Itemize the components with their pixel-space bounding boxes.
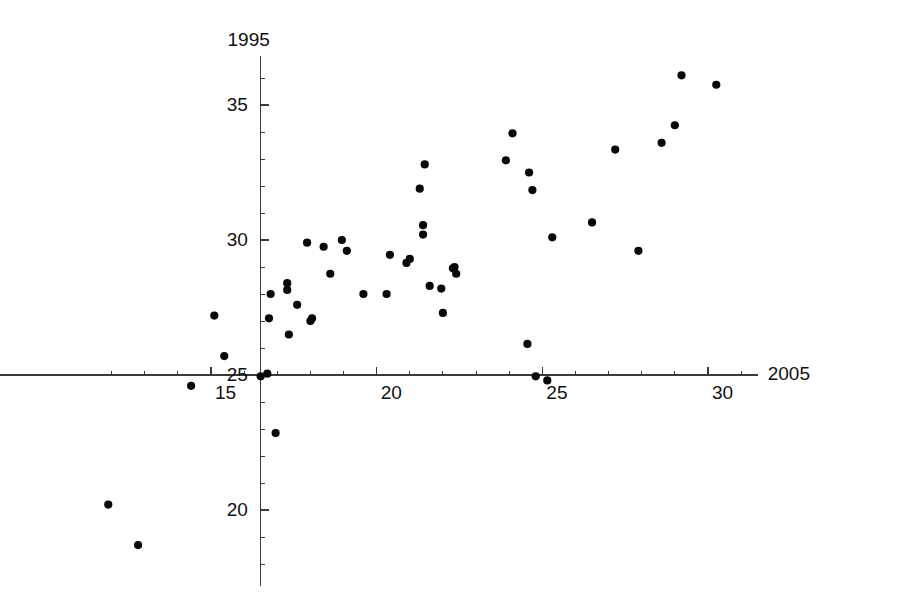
data-point xyxy=(528,186,536,194)
y-tick-label: 25 xyxy=(227,365,248,384)
data-point xyxy=(658,139,666,147)
x-tick-label: 30 xyxy=(712,383,733,402)
data-point xyxy=(421,160,429,168)
data-point xyxy=(303,239,311,247)
data-point xyxy=(308,314,316,322)
data-point xyxy=(671,121,679,129)
data-point xyxy=(532,372,540,380)
y-tick-label: 35 xyxy=(227,95,248,114)
data-point xyxy=(712,81,720,89)
data-point xyxy=(386,251,394,259)
y-tick-label: 20 xyxy=(227,500,248,519)
axis-ticks-group xyxy=(112,78,742,564)
data-point xyxy=(267,290,275,298)
data-point xyxy=(220,352,228,360)
data-point xyxy=(611,145,619,153)
data-point xyxy=(263,370,271,378)
data-point xyxy=(320,243,328,251)
y-tick-label: 30 xyxy=(227,230,248,249)
data-point xyxy=(343,247,351,255)
data-point xyxy=(134,541,142,549)
data-point xyxy=(416,185,424,193)
data-point xyxy=(439,309,447,317)
data-point xyxy=(508,129,516,137)
data-point xyxy=(383,290,391,298)
scatter-plot-figure: 152025302025303519952005 xyxy=(0,0,900,603)
x-tick-label: 20 xyxy=(381,383,402,402)
data-point xyxy=(293,301,301,309)
data-point xyxy=(187,382,195,390)
data-point xyxy=(283,286,291,294)
data-point xyxy=(285,330,293,338)
data-points-group xyxy=(104,71,720,549)
x-tick-label: 25 xyxy=(546,383,567,402)
data-point xyxy=(502,156,510,164)
data-point xyxy=(359,290,367,298)
data-point xyxy=(523,340,531,348)
data-point xyxy=(104,501,112,509)
data-point xyxy=(326,270,334,278)
data-point xyxy=(419,221,427,229)
data-point xyxy=(419,231,427,239)
data-point xyxy=(210,312,218,320)
plot-canvas xyxy=(0,0,900,603)
data-point xyxy=(437,285,445,293)
data-point xyxy=(548,233,556,241)
data-point xyxy=(272,429,280,437)
data-point xyxy=(426,282,434,290)
data-point xyxy=(588,218,596,226)
data-point xyxy=(452,270,460,278)
data-point xyxy=(634,247,642,255)
data-point xyxy=(338,236,346,244)
plot-surface: 152025302025303519952005 xyxy=(0,0,900,603)
axes-group xyxy=(0,56,758,585)
data-point xyxy=(525,168,533,176)
data-point xyxy=(265,314,273,322)
data-point xyxy=(677,71,685,79)
x-axis-title: 2005 xyxy=(768,364,810,383)
x-tick-label: 15 xyxy=(215,383,236,402)
data-point xyxy=(406,255,414,263)
y-axis-title: 1995 xyxy=(228,30,270,49)
